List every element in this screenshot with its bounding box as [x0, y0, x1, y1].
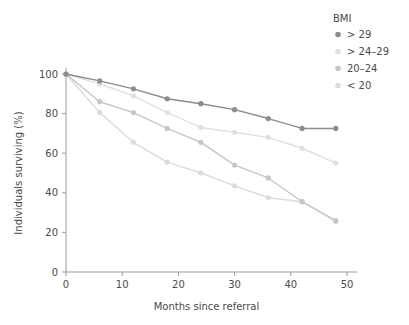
data-point [131, 140, 136, 145]
series-line-20 [66, 74, 336, 222]
data-point [63, 71, 68, 76]
legend-label[interactable]: > 29 [347, 29, 371, 40]
x-tick-label: 0 [63, 279, 69, 290]
legend-label[interactable]: > 24–29 [347, 46, 389, 57]
data-point [333, 161, 338, 166]
data-point [232, 130, 237, 135]
series-line-20-24 [66, 74, 336, 221]
data-point [97, 110, 102, 115]
data-point [198, 101, 203, 106]
data-point [165, 96, 170, 101]
data-point [198, 170, 203, 175]
x-tick-label: 50 [341, 279, 354, 290]
legend-title: BMI [333, 13, 351, 24]
y-tick-label: 0 [52, 267, 58, 278]
x-tick-label: 20 [172, 279, 185, 290]
legend-marker[interactable] [335, 83, 341, 89]
survival-chart: 02040608010001020304050Months since refe… [0, 0, 409, 325]
data-point [266, 135, 271, 140]
data-point [97, 78, 102, 83]
legend-label[interactable]: 20–24 [347, 63, 377, 74]
x-tick-label: 10 [116, 279, 129, 290]
data-point [232, 183, 237, 188]
y-tick-label: 80 [45, 108, 58, 119]
x-tick-label: 30 [228, 279, 241, 290]
chart-canvas: 02040608010001020304050Months since refe… [0, 0, 409, 325]
x-axis-title: Months since referral [154, 301, 260, 312]
data-point [266, 175, 271, 180]
data-point [131, 110, 136, 115]
data-point [131, 86, 136, 91]
y-tick-label: 60 [45, 148, 58, 159]
legend-marker[interactable] [335, 32, 341, 38]
y-tick-label: 20 [45, 227, 58, 238]
data-point [299, 146, 304, 151]
data-point [266, 195, 271, 200]
data-point [165, 160, 170, 165]
legend-marker[interactable] [335, 66, 341, 72]
data-point [131, 93, 136, 98]
y-axis-title: Individuals surviving (%) [13, 111, 24, 234]
data-point [299, 126, 304, 131]
data-point [232, 162, 237, 167]
y-tick-label: 100 [39, 69, 58, 80]
data-point [266, 116, 271, 121]
data-point [198, 140, 203, 145]
data-point [333, 218, 338, 223]
data-point [97, 99, 102, 104]
legend-label[interactable]: < 20 [347, 80, 371, 91]
y-tick-label: 40 [45, 187, 58, 198]
data-point [198, 125, 203, 130]
data-point [333, 126, 338, 131]
x-tick-label: 40 [284, 279, 297, 290]
data-point [299, 199, 304, 204]
legend-marker[interactable] [335, 49, 341, 55]
data-point [165, 110, 170, 115]
data-point [165, 126, 170, 131]
data-point [232, 107, 237, 112]
